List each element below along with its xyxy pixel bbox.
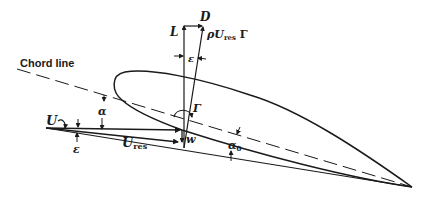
epsilon-top-label: ε [188, 53, 194, 64]
u-res-u: U [122, 135, 134, 150]
airfoil-diagram: Chord line L D ρUres Γ ε Γ α U ε Ures w … [0, 0, 434, 199]
epsilon-left-label: ε [73, 143, 80, 156]
gamma-label: Γ [192, 102, 202, 115]
u-res-subscript: res [133, 141, 147, 151]
rho-u-res-subscript: res [224, 33, 236, 42]
drag-label: D [199, 10, 211, 24]
epsilon-top-arrow-right [198, 58, 206, 59]
alpha-zero-label: α0 [228, 139, 241, 153]
alpha0-arrow-top [237, 127, 240, 134]
lift-label: L [169, 25, 178, 39]
downwash-label: w [186, 133, 196, 146]
freestream-label: U [46, 113, 58, 128]
zero-lift-line [46, 128, 412, 187]
rho-u-label: ρU [206, 28, 225, 41]
rho-u-gamma-label: Γ [236, 28, 248, 41]
alpha-zero-subscript: 0 [236, 144, 241, 153]
alpha-label: α [98, 105, 107, 118]
kutta-joukowski-force-vector [184, 27, 203, 148]
freestream-curl-arrow [58, 120, 65, 128]
kutta-force-label: ρUres Γ [206, 28, 248, 42]
chord-line-label: Chord line [20, 57, 74, 69]
